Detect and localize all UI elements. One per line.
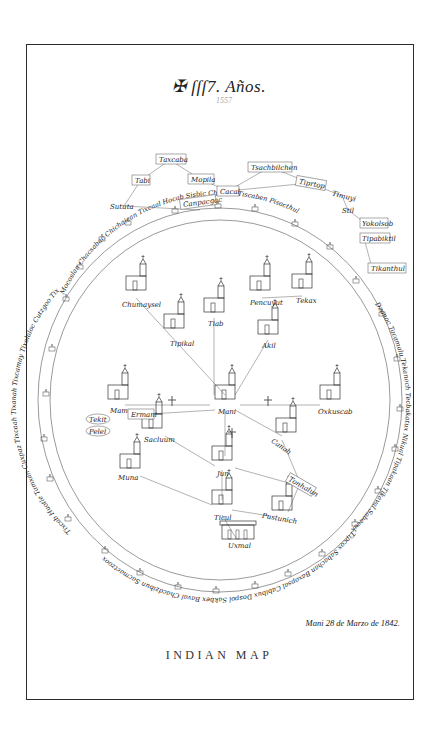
outer-places: Taxcaba Tabi Mopila Sututa Cacal Canpacg… xyxy=(110,154,406,273)
place-taxcaba: Taxcaba xyxy=(156,154,188,164)
place-tiprtop: Tiprtop xyxy=(295,175,326,190)
ring-label-top: Mocoslan Chacsabac Chichaican Tixcaal Ho… xyxy=(58,189,300,297)
place-sacluum: Sacluum xyxy=(144,436,175,444)
ring-label-bottom: Tipcox Sabachan Baxopsal Cabibux Dospol … xyxy=(100,530,357,604)
place-cacal: Cacal xyxy=(217,186,240,196)
place-pustunich: Pustunich xyxy=(261,512,298,526)
place-tabi: Tabi xyxy=(132,175,150,185)
place-tiab: Tiab xyxy=(208,320,224,328)
svg-text:Mopila: Mopila xyxy=(190,176,216,184)
place-stil: Stil xyxy=(342,207,354,215)
place-tonhalun: Tonhalun xyxy=(285,473,321,499)
svg-text:Tekit: Tekit xyxy=(89,416,107,424)
svg-text:Yokolsob: Yokolsob xyxy=(362,220,394,228)
place-tipikal: Tipikal xyxy=(170,340,194,348)
church-icons xyxy=(108,253,340,539)
place-pelel: Pelel xyxy=(86,426,110,436)
svg-text:Tabi: Tabi xyxy=(135,177,150,185)
outer-connections xyxy=(124,160,372,268)
place-tekit: Tekit xyxy=(86,414,110,424)
date-line: Mani 28 de Marzo de 1842. xyxy=(306,618,400,628)
place-tekax: Tekax xyxy=(296,297,317,305)
temple-icon xyxy=(220,521,256,539)
place-uxmal: Uxmal xyxy=(228,542,251,550)
place-ticul: Ticul xyxy=(214,514,232,522)
place-sututa: Sututa xyxy=(110,203,134,211)
ring-label-right: Dzonoc Tacamalu Tekanoch Tecbakatux Niku… xyxy=(0,0,412,534)
svg-text:Timuyi: Timuyi xyxy=(331,190,356,204)
place-yokolsob: Yokolsob xyxy=(360,218,394,228)
map-caption: INDIAN MAP xyxy=(0,648,438,663)
place-tipabiktil: Tipabiktil xyxy=(360,233,396,243)
place-pencuyut: Pencuyut xyxy=(249,299,283,307)
place-timuyi: Timuyi xyxy=(331,190,356,204)
svg-text:Tipabiktil: Tipabiktil xyxy=(362,235,396,243)
ring-label-left: Tixcab Huotle Tamxan Cuxpaz Tixcaah Tixa… xyxy=(0,0,72,536)
svg-text:Sututa: Sututa xyxy=(110,203,134,211)
svg-text:Stil: Stil xyxy=(342,207,354,215)
svg-text:Ermani: Ermani xyxy=(130,411,157,419)
place-mopila: Mopila xyxy=(188,174,216,184)
place-akil: Akil xyxy=(261,342,276,350)
place-tsachbilchen: Tsachbilchen xyxy=(248,162,298,172)
place-chumaysel: Chumaysel xyxy=(122,301,161,309)
svg-text:Tikanthul: Tikanthul xyxy=(371,265,405,273)
place-canpacgac: Canpacgac xyxy=(179,195,222,210)
place-oxkuscab: Oxkuscab xyxy=(318,408,353,416)
place-ermani: Ermani xyxy=(128,409,157,419)
place-tikanthul: Tikanthul xyxy=(368,263,406,273)
svg-text:Tsachbilchen: Tsachbilchen xyxy=(251,164,298,172)
place-jun: Jun xyxy=(215,470,229,478)
place-muna: Muna xyxy=(117,474,138,482)
cross-markers xyxy=(168,396,272,438)
inner-places: Chumaysel Tipikal Tiab Pencuyut Tekax Ak… xyxy=(86,297,353,550)
place-mani: Mani xyxy=(217,408,236,416)
svg-text:Pelel: Pelel xyxy=(88,428,106,436)
svg-text:Taxcaba: Taxcaba xyxy=(159,156,188,164)
svg-text:Cacal: Cacal xyxy=(220,188,240,196)
place-canah: Canah xyxy=(270,437,293,457)
